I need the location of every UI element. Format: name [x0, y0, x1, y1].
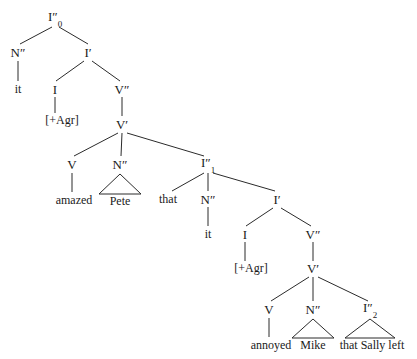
- tree-branch-n15-n17: [246, 208, 273, 226]
- tree-branch-n20-n23: [318, 277, 368, 301]
- branch-lines: [18, 27, 368, 337]
- tree-branch-n20-n21: [271, 277, 309, 301]
- tree-branch-n15-n18: [281, 208, 311, 226]
- constituent-triangle-n22: [292, 319, 334, 338]
- tree-branch-n7-n8: [74, 133, 118, 156]
- tree-branch-n0-n2: [59, 27, 88, 44]
- tree-branch-n10-n13: [172, 173, 204, 191]
- tree-lines-layer: [0, 0, 417, 359]
- tree-branch-n10-n15: [213, 173, 275, 191]
- tree-branch-n2-n5: [92, 61, 120, 81]
- tree-branch-n2-n4: [56, 61, 84, 81]
- tree-branch-n0-n1: [20, 27, 52, 44]
- syntax-tree-diagram: I″0N″I′itIV″[+Agr]V′VN″I″1amazedPetethat…: [0, 0, 417, 359]
- tree-branch-n7-n10: [127, 133, 204, 156]
- constituent-triangle-n9: [99, 174, 141, 194]
- triangle-constituents: [99, 174, 395, 338]
- tree-branch-n7-n9: [121, 133, 122, 156]
- constituent-triangle-n23: [345, 319, 395, 338]
